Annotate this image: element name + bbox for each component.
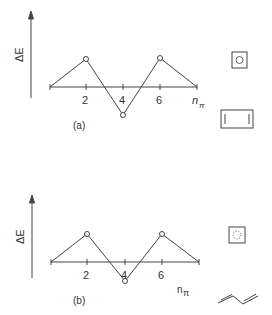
data-point	[84, 57, 89, 62]
x-axis-label-a: n	[192, 94, 198, 106]
ring-icon	[236, 57, 243, 64]
y-axis-label-b: ΔE	[14, 229, 26, 244]
butadiene-icon	[218, 296, 258, 304]
data-point	[158, 56, 163, 61]
tick-4-b: 4	[121, 269, 127, 281]
square-ring-icon	[232, 52, 247, 68]
data-point	[85, 232, 90, 237]
y-axis-arrow-icon	[29, 11, 34, 19]
y-axis-label-a: ΔE	[13, 47, 25, 62]
tick-2-b: 2	[83, 269, 89, 281]
diagram-canvas: ΔE 2 4 6 n π (a) ΔE 2 4 6 n π (b)	[0, 0, 272, 315]
panel-label-b: (b)	[73, 295, 85, 306]
y-axis-arrow-icon	[30, 195, 35, 203]
tick-6-b: 6	[158, 269, 164, 281]
data-point	[160, 232, 165, 237]
tick-2-a: 2	[82, 94, 88, 106]
panel-label-a: (a)	[73, 120, 85, 131]
x-axis-label-b: n	[177, 284, 183, 295]
panel-a	[29, 11, 254, 128]
tick-4-a: 4	[119, 94, 125, 106]
x-axis-subscript-b: π	[183, 288, 189, 298]
tick-6-a: 6	[156, 94, 162, 106]
panel-b	[30, 195, 259, 304]
rectangle-icon	[221, 110, 253, 128]
square-dotted-ring-icon	[229, 227, 245, 243]
dotted-ring-icon	[233, 231, 241, 239]
x-axis-subscript-a: π	[199, 101, 205, 110]
data-point	[121, 113, 126, 118]
